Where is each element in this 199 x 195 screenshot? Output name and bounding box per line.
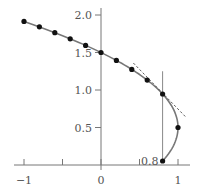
data-point: [83, 43, 88, 48]
data-point: [145, 78, 150, 83]
data-point: [68, 36, 73, 41]
y-tick-label: 1.0: [75, 84, 93, 97]
x-tick-label: −1: [16, 174, 32, 187]
y-tick-label: 1.5: [75, 47, 93, 60]
annotations: 0.8: [141, 155, 159, 168]
x-tick-label: 0: [98, 174, 105, 187]
data-point: [160, 158, 165, 163]
data-point: [37, 24, 42, 29]
x-tick-label: 1: [175, 174, 182, 187]
data-point: [21, 19, 26, 24]
annotation-label: 0.8: [141, 155, 159, 168]
data-point: [160, 91, 165, 96]
y-ticks: 0.51.01.52.0: [75, 9, 102, 135]
tangent-line: [133, 63, 186, 118]
data-point: [114, 58, 119, 63]
chart: −101 0.51.01.52.0 0.8: [0, 0, 199, 195]
data-point: [129, 67, 134, 72]
data-point: [175, 125, 180, 130]
data-point: [98, 50, 103, 55]
data-point: [52, 30, 57, 35]
y-tick-label: 0.5: [75, 122, 93, 135]
y-tick-label: 2.0: [75, 9, 93, 22]
